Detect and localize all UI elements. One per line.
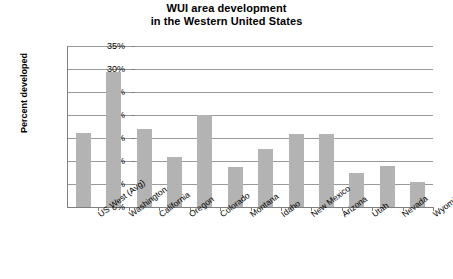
bar	[76, 133, 91, 207]
chart-title-line-2: in the Western United States	[0, 15, 453, 28]
x-axis-category-label: New Mexico	[309, 211, 315, 219]
y-axis-tick-mark	[131, 92, 135, 93]
x-axis-category-labels: US West (Avg)WashingtonCaliforniaOregonC…	[67, 209, 453, 279]
bar	[289, 134, 304, 207]
y-axis-tick-mark	[131, 69, 135, 70]
y-axis-title: Percent developed	[19, 33, 29, 153]
bar	[197, 115, 212, 207]
x-axis-category-label: Utah	[370, 211, 376, 219]
plot-area: 35%30%25%20%15%10%5%0%	[67, 46, 433, 208]
y-axis-tick-mark	[131, 138, 135, 139]
y-axis-tick-mark	[131, 161, 135, 162]
x-axis-category-label: Oregon	[187, 211, 193, 219]
x-axis-category-label: Washington	[127, 211, 133, 219]
x-axis-category-label: Wyoming	[431, 211, 437, 219]
y-axis-tick-mark	[131, 115, 135, 116]
bar	[106, 72, 121, 207]
x-axis-category-label: Colorado	[218, 211, 224, 219]
chart-title: WUI area development in the Western Unit…	[0, 2, 453, 28]
x-axis-category-label: US West (Avg)	[96, 211, 102, 219]
y-axis-tick-mark	[131, 46, 135, 47]
chart-title-line-1: WUI area development	[167, 2, 287, 14]
x-axis-category-label: Montana	[248, 211, 254, 219]
x-axis-category-label: Arizona	[340, 211, 346, 219]
x-axis-category-label: California	[157, 211, 163, 219]
x-axis-category-label: Nevada	[400, 211, 406, 219]
chart-container: WUI area development in the Western Unit…	[0, 0, 453, 279]
x-axis-category-label: Idaho	[279, 211, 285, 219]
y-axis-tick-label: 35%	[91, 42, 125, 51]
